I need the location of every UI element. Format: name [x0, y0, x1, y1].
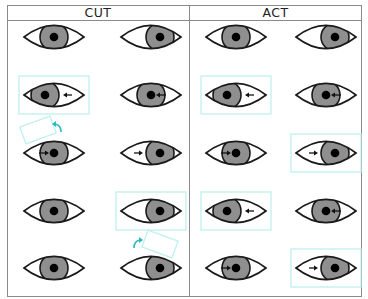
- pupil: [156, 33, 165, 42]
- pupil: [232, 149, 241, 158]
- eye-grid: [0, 0, 368, 299]
- pupil: [322, 91, 331, 100]
- eye: [24, 139, 84, 167]
- pupil: [331, 33, 340, 42]
- eye: [19, 76, 89, 114]
- pupil: [232, 33, 241, 42]
- eye: [291, 134, 361, 172]
- eye: [296, 81, 356, 109]
- eye: [116, 192, 186, 230]
- pupil: [50, 33, 59, 42]
- pupil: [232, 264, 241, 273]
- eye: [206, 23, 266, 51]
- eye: [121, 81, 181, 109]
- pupil: [331, 149, 340, 158]
- eye: [296, 197, 356, 225]
- pupil: [50, 207, 59, 216]
- eye: [201, 76, 271, 114]
- eye: [24, 23, 84, 51]
- pupil: [223, 91, 232, 100]
- pupil: [223, 207, 232, 216]
- pupil: [50, 149, 59, 158]
- rotated-frame-indicator: [134, 230, 178, 258]
- eye: [291, 249, 361, 287]
- eye: [24, 254, 84, 282]
- eye: [206, 254, 266, 282]
- pupil: [156, 207, 165, 216]
- pupil: [41, 91, 50, 100]
- pupil: [322, 207, 331, 216]
- pupil: [331, 264, 340, 273]
- eye: [296, 23, 356, 51]
- pupil: [147, 91, 156, 100]
- eye: [201, 192, 271, 230]
- eye: [121, 139, 181, 167]
- rotated-frame-indicator: [20, 116, 61, 144]
- eye: [24, 197, 84, 225]
- eye: [206, 139, 266, 167]
- pupil: [156, 264, 165, 273]
- eye: [121, 23, 181, 51]
- pupil: [50, 264, 59, 273]
- pupil: [156, 149, 165, 158]
